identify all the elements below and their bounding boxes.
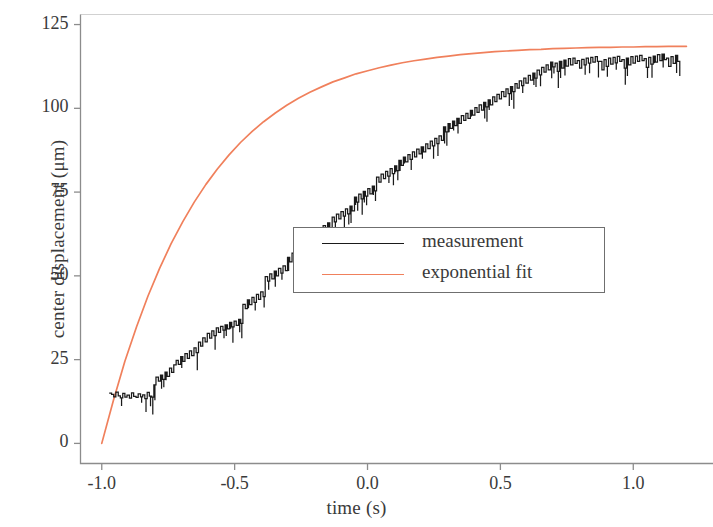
legend-line-swatch-measurement: [322, 243, 404, 244]
x-axis-tick-label: 1.0: [583, 473, 683, 494]
chart-legend: measurement exponential fit: [293, 227, 605, 293]
x-axis-tick-label: -0.5: [185, 473, 285, 494]
x-axis-label: time (s): [0, 497, 713, 519]
y-axis-label: center displacement (μm): [47, 29, 69, 449]
legend-entry-exponential-fit: exponential fit: [294, 259, 606, 292]
legend-label-measurement: measurement: [422, 230, 598, 252]
legend-line-swatch-exponential-fit: [322, 274, 404, 275]
x-axis-tick-label: 0.0: [318, 473, 418, 494]
legend-entry-measurement: measurement: [294, 228, 606, 261]
x-axis-tick-label: 0.5: [450, 473, 550, 494]
figure-canvas: 0255075100125 -1.0-0.50.00.51.0 time (s)…: [0, 0, 713, 527]
x-axis-tick-label: -1.0: [52, 473, 152, 494]
legend-label-exponential-fit: exponential fit: [422, 261, 598, 283]
